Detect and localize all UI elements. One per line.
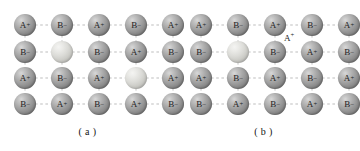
lattice-ion: B–: [88, 93, 110, 115]
lattice-vacancy: [51, 41, 73, 63]
ion-charge-sign: –: [313, 75, 316, 82]
ion-label: A+: [190, 67, 212, 89]
panel-b-caption: ( b ): [176, 126, 351, 137]
ion-label-base: A: [196, 21, 203, 30]
lattice-ion: B–: [301, 14, 323, 36]
ion-charge-sign: –: [350, 49, 353, 56]
ion-charge-sign: +: [277, 22, 281, 29]
lattice-ion: B–: [88, 41, 110, 63]
ion-label-base: A: [131, 48, 138, 57]
lattice-vacancy: [227, 41, 249, 63]
ion-label-base: A: [20, 74, 27, 83]
ion-label-base: A: [270, 74, 277, 83]
ion-label: B–: [14, 41, 36, 63]
lattice-ion: B–: [227, 67, 249, 89]
ion-label: A+: [338, 67, 360, 89]
ion-charge-sign: –: [202, 101, 205, 108]
ion-charge-sign: +: [27, 75, 31, 82]
ion-charge-sign: +: [203, 22, 207, 29]
lattice-ion: B–: [51, 14, 73, 36]
ion-label: A+: [301, 41, 323, 63]
ion-label: B–: [51, 14, 73, 36]
ion-label: A+: [264, 67, 286, 89]
lattice-ion: B–: [264, 41, 286, 63]
ion-label-base: A: [270, 21, 277, 30]
lattice-ion: B–: [338, 93, 360, 115]
ion-label-base: A: [20, 21, 27, 30]
ion-label-base: A: [307, 100, 314, 109]
ion-label: B–: [190, 41, 212, 63]
ion-charge-sign: +: [314, 49, 318, 56]
ion-label: A+: [301, 93, 323, 115]
ion-label: B–: [264, 93, 286, 115]
ion-charge-sign: +: [203, 75, 207, 82]
ion-charge-sign: –: [26, 101, 29, 108]
ion-label: A+: [88, 14, 110, 36]
ion-label: B–: [51, 67, 73, 89]
ion-charge-sign: +: [351, 75, 355, 82]
ion-label: A+: [190, 14, 212, 36]
ion-label-base: A: [57, 100, 64, 109]
ion-charge-sign: –: [137, 22, 140, 29]
lattice-ion: A+: [190, 67, 212, 89]
ion-charge-sign: –: [100, 101, 103, 108]
ion-label: B–: [14, 93, 36, 115]
ion-charge-sign: –: [276, 101, 279, 108]
panel-a-caption: ( a ): [0, 126, 175, 137]
ion-charge-sign: +: [64, 101, 68, 108]
lattice-ion: B–: [125, 14, 147, 36]
panel-a: A+B–A+B–A+B–B–A+B–A+B–A+A+B–A+B–A+B– ( a…: [0, 0, 175, 151]
lattice-ion: B–: [190, 41, 212, 63]
lattice-b: A+B–A+B–A+B–B–A+B–A+B–A+B–A+B–A+B–A+B–A+: [176, 0, 351, 124]
lattice-a: A+B–A+B–A+B–B–A+B–A+B–A+A+B–A+B–A+B–: [0, 0, 175, 124]
ion-label: A+: [125, 93, 147, 115]
ion-charge-sign: +: [351, 22, 355, 29]
ion-label-base: A: [344, 74, 351, 83]
lattice-ion: A+: [227, 93, 249, 115]
ion-label: A+: [338, 14, 360, 36]
ion-label-base: A: [94, 74, 101, 83]
lattice-ion: B–: [190, 93, 212, 115]
ion-charge-sign: –: [313, 22, 316, 29]
ion-label: B–: [88, 41, 110, 63]
lattice-ion: A+: [88, 14, 110, 36]
lattice-ion: B–: [227, 14, 249, 36]
ion-charge-sign: –: [26, 49, 29, 56]
ion-label: B–: [338, 93, 360, 115]
ion-label: A+: [51, 93, 73, 115]
lattice-ion: A+: [125, 93, 147, 115]
ion-label: B–: [338, 41, 360, 63]
ion-label-base: A: [196, 74, 203, 83]
ion-label: A+: [88, 67, 110, 89]
ion-label: A+: [14, 67, 36, 89]
ion-charge-sign: –: [276, 49, 279, 56]
ion-charge-sign: –: [350, 101, 353, 108]
lattice-ion: B–: [338, 41, 360, 63]
ion-charge-sign: +: [138, 101, 142, 108]
interstitial-ion-label: A+: [284, 32, 294, 43]
lattice-ion: A+: [125, 41, 147, 63]
ion-label: B–: [88, 93, 110, 115]
ion-label: B–: [227, 14, 249, 36]
lattice-ion: B–: [301, 67, 323, 89]
ion-label-base: A: [307, 48, 314, 57]
lattice-ion: A+: [301, 41, 323, 63]
ion-label: B–: [190, 93, 212, 115]
ion-label-base: A: [168, 74, 175, 83]
lattice-ion: A+: [264, 14, 286, 36]
ion-charge-sign: –: [239, 75, 242, 82]
ion-label: B–: [301, 14, 323, 36]
ion-label: A+: [264, 14, 286, 36]
ion-label: A+: [227, 93, 249, 115]
ion-charge-sign: –: [63, 75, 66, 82]
ion-charge-sign: –: [63, 22, 66, 29]
ion-label: B–: [264, 41, 286, 63]
panel-b: A+B–A+B–A+B–B–A+B–A+B–A+B–A+B–A+B–A+B–A+…: [176, 0, 351, 151]
ion-charge-sign: +: [240, 101, 244, 108]
ion-charge-sign: –: [239, 22, 242, 29]
ion-charge-sign: –: [100, 49, 103, 56]
ion-charge-sign: +: [101, 22, 105, 29]
ion-charge-sign: +: [138, 49, 142, 56]
ion-label-base: A: [168, 21, 175, 30]
